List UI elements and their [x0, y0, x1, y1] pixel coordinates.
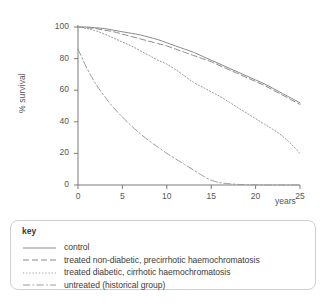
series-line-3 — [78, 27, 300, 153]
legend-line-swatch — [22, 242, 58, 253]
y-tick-label: 60 — [45, 84, 69, 94]
legend-line-swatch — [22, 254, 58, 265]
legend-item: untreated (historical group) — [22, 279, 312, 292]
legend-item: treated diabetic, cirrhotic haemochromat… — [22, 266, 312, 279]
legend-item-label: treated diabetic, cirrhotic haemochromat… — [58, 267, 230, 277]
chart-plot-area: % survival years 020406080100 0510152025 — [0, 0, 331, 215]
legend-item: treated non-diabetic, precirrhotic haemo… — [22, 254, 312, 267]
legend-line-swatch — [22, 267, 58, 278]
axis-ticks — [74, 27, 300, 189]
survival-chart-figure: % survival years 020406080100 0510152025… — [0, 0, 331, 307]
legend-item: control — [22, 241, 312, 254]
x-tick-label: 20 — [244, 191, 268, 201]
y-tick-label: 40 — [45, 116, 69, 126]
y-tick-label: 100 — [45, 21, 69, 31]
x-tick-label: 25 — [288, 191, 312, 201]
y-tick-label: 80 — [45, 53, 69, 63]
x-tick-label: 10 — [155, 191, 179, 201]
x-tick-label: 0 — [66, 191, 90, 201]
y-axis-title: % survival — [17, 53, 27, 133]
legend-item-label: treated non-diabetic, precirrhotic haemo… — [58, 255, 260, 265]
x-tick-label: 5 — [110, 191, 134, 201]
series-line-1 — [78, 27, 300, 103]
series-line-4 — [78, 49, 300, 185]
chart-legend: key controltreated non-diabetic, precirr… — [10, 220, 316, 290]
legend-items-list: controltreated non-diabetic, precirrhoti… — [22, 241, 312, 291]
legend-item-label: control — [58, 242, 89, 252]
y-tick-label: 0 — [45, 179, 69, 189]
y-tick-label: 20 — [45, 147, 69, 157]
series-line-2 — [78, 27, 300, 104]
legend-title: key — [22, 226, 36, 236]
legend-item-label: untreated (historical group) — [58, 280, 165, 290]
x-tick-label: 15 — [199, 191, 223, 201]
legend-line-swatch — [22, 279, 58, 290]
